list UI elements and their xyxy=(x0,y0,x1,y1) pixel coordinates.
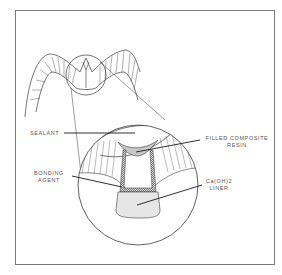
label-filled-composite: FILLED COMPOSITE RESIN xyxy=(202,135,272,149)
label-bonding-agent: BONDING AGENT xyxy=(32,170,66,184)
label-sealant: SEALANT xyxy=(30,130,59,137)
label-liner-line2: LINER xyxy=(204,185,234,192)
label-filled-composite-line1: FILLED COMPOSITE xyxy=(202,135,272,142)
label-filled-composite-line2: RESIN xyxy=(202,142,272,149)
tooth-outline xyxy=(25,50,140,117)
label-bonding-line2: AGENT xyxy=(32,177,66,184)
label-bonding-line1: BONDING xyxy=(32,170,66,177)
label-liner-line1: Ca(OH)2 xyxy=(204,178,234,185)
label-liner: Ca(OH)2 LINER xyxy=(204,178,234,192)
